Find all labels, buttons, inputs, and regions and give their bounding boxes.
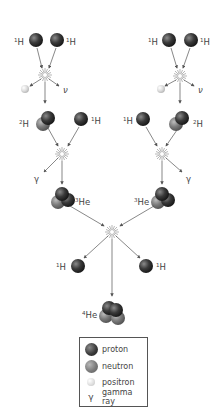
proton-ball [139, 259, 153, 273]
label-1H: 1H [14, 37, 24, 47]
svg-text:2H: 2H [193, 119, 203, 129]
neutron-ball-icon [85, 360, 98, 373]
positron-ball [21, 85, 29, 93]
left-step2: 2H 1H γ [19, 111, 101, 184]
svg-text:4He: 4He [82, 310, 97, 320]
svg-text:3He: 3He [75, 197, 90, 207]
svg-text:1H: 1H [148, 37, 158, 47]
proton-ball [71, 259, 85, 273]
proton-ball [184, 33, 198, 47]
legend: proton neutron positron γ gamma ray [79, 337, 148, 407]
he3-right: 3He [134, 187, 175, 209]
svg-text:3He: 3He [134, 197, 149, 207]
legend-item-proton: proton [80, 341, 128, 357]
neutrino-label: ν [63, 85, 68, 95]
he3-left: 3He [51, 187, 90, 209]
svg-text:1H: 1H [56, 262, 66, 272]
legend-item-gamma: γ gamma ray [80, 389, 147, 405]
pp-chain-diagram: 1H 1H ν 1H 1H ν 2H 1H γ [0, 0, 224, 337]
label-1H: 1H [66, 37, 76, 47]
proton-ball [162, 33, 176, 47]
left-step1: 1H 1H ν [14, 33, 76, 103]
legend-item-neutron: neutron [80, 358, 133, 374]
svg-text:ν: ν [198, 85, 203, 95]
proton-ball [175, 111, 189, 125]
positron-ball-icon [87, 378, 95, 386]
step3: 1H 1H [56, 206, 166, 296]
svg-text:1H: 1H [91, 116, 101, 126]
he4: 4He [82, 301, 125, 325]
svg-text:γ: γ [186, 174, 191, 184]
proton-ball [136, 112, 150, 126]
svg-text:1H: 1H [156, 262, 166, 272]
gamma-symbol-icon: γ [83, 392, 99, 402]
proton-ball [50, 33, 64, 47]
proton-ball [41, 111, 55, 125]
right-step1: 1H 1H ν [148, 33, 210, 103]
proton-ball [74, 112, 88, 126]
svg-text:1H: 1H [123, 116, 133, 126]
svg-text:2H: 2H [19, 119, 29, 129]
svg-text:1H: 1H [200, 37, 210, 47]
proton-ball-icon [85, 343, 98, 356]
right-step2: 1H 2H γ [123, 111, 203, 184]
proton-ball [29, 33, 43, 47]
positron-ball [157, 85, 165, 93]
gamma-label: γ [34, 174, 39, 184]
